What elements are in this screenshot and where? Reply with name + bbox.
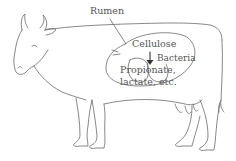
cow-front-leg-right [89, 100, 105, 148]
cow-head [14, 30, 48, 74]
cow-rumen-diagram: Rumen Cellulose Bacteria Propionate, lac… [0, 0, 236, 161]
cellulose-label: Cellulose [132, 39, 176, 49]
cow-horn-right [40, 15, 47, 30]
cow-neck-underside [34, 66, 86, 100]
cow-eye [32, 45, 37, 47]
cow-nostril [18, 67, 22, 69]
rumen-label: Rumen [90, 6, 124, 16]
cow-outline-drawing [0, 0, 236, 161]
cow-hind-leg-right [199, 100, 220, 150]
cow-horn-left [21, 14, 28, 30]
cow-udder [175, 104, 198, 114]
products-label-line1: Propionate, [120, 65, 176, 75]
rumen-stub [112, 50, 120, 55]
products-label-line2: lactate, etc. [120, 77, 177, 87]
cow-belly [104, 100, 202, 105]
cow-front-leg-left [73, 98, 92, 146]
bacteria-label: Bacteria [157, 54, 196, 63]
cow-tail [219, 40, 224, 112]
rumen-leader-line [110, 19, 126, 44]
